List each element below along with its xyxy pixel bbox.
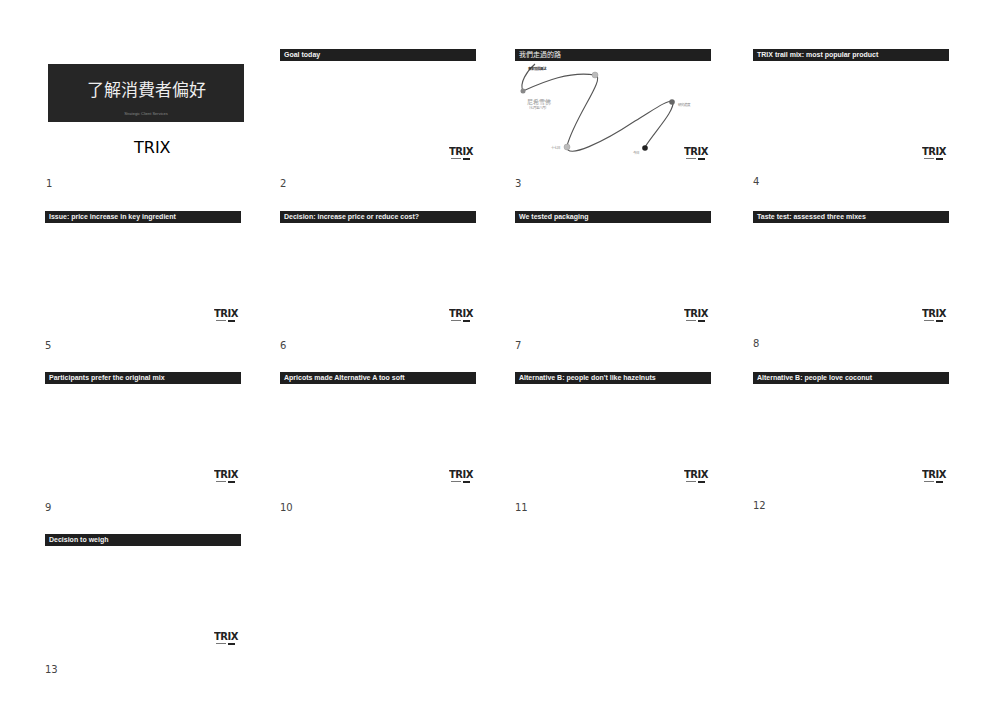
slide-title: TRIX trail mix: most popular product xyxy=(753,49,949,61)
trix-logo-tagline-icon xyxy=(213,481,239,483)
path-node-icon xyxy=(669,99,675,105)
trix-logo-tagline-icon xyxy=(448,481,474,483)
slide-title: Participants prefer the original mix xyxy=(45,372,241,384)
trix-logo-wordmark: TRIX xyxy=(448,470,474,481)
slide-thumbnail-7[interactable]: We tested packaging TRIX xyxy=(515,211,711,337)
journey-path-diagram xyxy=(515,61,711,166)
trix-logo: TRIX xyxy=(683,470,709,484)
trix-logo-wordmark: TRIX xyxy=(921,470,947,481)
trix-logo: TRIX xyxy=(921,470,947,484)
slide-title: Issue: price increase in key ingredient xyxy=(45,211,241,223)
slide-number: 12 xyxy=(753,500,766,511)
trix-logo: TRIX xyxy=(921,309,947,323)
slide-title: Decision: increase price or reduce cost? xyxy=(280,211,476,223)
trix-logo: TRIX xyxy=(448,309,474,323)
slide-thumbnail-2[interactable]: Goal today TRIX xyxy=(280,49,476,175)
trix-logo: TRIX xyxy=(448,470,474,484)
slide-title: Alternative B: people love coconut xyxy=(753,372,949,384)
trix-logo-tagline-icon xyxy=(213,320,239,322)
path-node-icon xyxy=(564,144,570,150)
slide-number: 9 xyxy=(45,502,51,513)
slide-number: 13 xyxy=(45,664,58,675)
slide-thumbnail-13[interactable]: Decision to weigh TRIX xyxy=(45,534,241,660)
slide-title: Decision to weigh xyxy=(45,534,241,546)
slide-number: 6 xyxy=(280,340,286,351)
trix-logo-wordmark: TRIX xyxy=(921,309,947,320)
trix-logo-tagline-icon xyxy=(448,320,474,322)
path-node-icon xyxy=(592,72,598,78)
slide-thumbnail-9[interactable]: Participants prefer the original mix TRI… xyxy=(45,372,241,498)
slide-title: Apricots made Alternative A too soft xyxy=(280,372,476,384)
trix-logo-wordmark: TRIX xyxy=(213,632,239,643)
slide-number: 7 xyxy=(515,340,521,351)
trix-logo: TRIX xyxy=(134,138,160,152)
slide-thumbnail-11[interactable]: Alternative B: people don't like hazelnu… xyxy=(515,372,711,498)
trix-logo: TRIX xyxy=(213,309,239,323)
trix-logo: TRIX xyxy=(683,147,709,161)
slide-title: Taste test: assessed three mixes xyxy=(753,211,949,223)
trix-logo-wordmark: TRIX xyxy=(921,147,947,158)
slide-thumbnail-12[interactable]: Alternative B: people love coconut TRIX xyxy=(753,372,949,498)
trix-logo-tagline-icon xyxy=(683,158,709,160)
trix-logo: TRIX xyxy=(448,147,474,161)
map-label-start: 專案發展概述 xyxy=(528,66,546,71)
trix-logo-wordmark: TRIX xyxy=(683,470,709,481)
trix-logo-tagline-icon xyxy=(683,481,709,483)
slide-title: We tested packaging xyxy=(515,211,711,223)
trix-logo-wordmark: TRIX xyxy=(448,309,474,320)
slide-number: 3 xyxy=(515,178,521,189)
slide-thumbnail-3[interactable]: 我們走過的路 專案發展概述 尼希雪佛 （七月至八月） 十七日 研究進度 今日 T… xyxy=(515,49,711,175)
trix-logo-tagline-icon xyxy=(921,158,947,160)
slide-thumbnail-5[interactable]: Issue: price increase in key ingredient … xyxy=(45,211,241,337)
slide-title: Alternative B: people don't like hazelnu… xyxy=(515,372,711,384)
slide-thumbnail-6[interactable]: Decision: increase price or reduce cost?… xyxy=(280,211,476,337)
slide-number: 8 xyxy=(753,338,759,349)
slide-title: Goal today xyxy=(280,49,476,61)
slide-number: 2 xyxy=(280,178,286,189)
trix-logo-tagline-icon xyxy=(921,320,947,322)
trix-logo-wordmark: TRIX xyxy=(213,470,239,481)
slide-thumbnail-10[interactable]: Apricots made Alternative A too soft TRI… xyxy=(280,372,476,498)
slide-number: 5 xyxy=(45,340,51,351)
slide-thumbnail-1[interactable]: 了解消費者偏好 Strategic Client Services TRIX xyxy=(46,46,242,172)
map-label-node1-sub: （七月至八月） xyxy=(527,105,548,110)
trix-logo: TRIX xyxy=(921,147,947,161)
slide-number: 10 xyxy=(280,502,293,513)
trix-logo-wordmark: TRIX xyxy=(448,147,474,158)
slide-thumbnail-4[interactable]: TRIX trail mix: most popular product TRI… xyxy=(753,49,949,175)
trix-logo-wordmark: TRIX xyxy=(683,309,709,320)
map-label-node2: 十七日 xyxy=(551,145,560,150)
trix-logo-tagline-icon xyxy=(921,481,947,483)
trix-logo-tagline-icon xyxy=(683,320,709,322)
map-label-end: 今日 xyxy=(633,150,639,155)
slide-title: 我們走過的路 xyxy=(515,49,711,61)
path-node-end-icon xyxy=(642,145,648,151)
slide-number: 11 xyxy=(515,502,528,513)
path-node-icon xyxy=(521,89,526,94)
trix-logo-wordmark: TRIX xyxy=(213,309,239,320)
cover-title: 了解消費者偏好 xyxy=(48,76,244,101)
cover-title-box: 了解消費者偏好 Strategic Client Services xyxy=(48,64,244,122)
trix-logo: TRIX xyxy=(213,470,239,484)
map-label-node3: 研究進度 xyxy=(678,102,690,107)
trix-logo: TRIX xyxy=(213,632,239,646)
trix-logo-wordmark: TRIX xyxy=(683,147,709,158)
trix-logo-tagline-icon xyxy=(448,158,474,160)
slide-thumbnail-8[interactable]: Taste test: assessed three mixes TRIX xyxy=(753,211,949,337)
slide-number: 1 xyxy=(46,178,52,189)
trix-logo-tagline-icon xyxy=(213,643,239,645)
cover-subtitle: Strategic Client Services xyxy=(48,111,244,116)
slide-number: 4 xyxy=(753,176,759,187)
trix-logo-wordmark: TRIX xyxy=(134,138,171,157)
trix-logo: TRIX xyxy=(683,309,709,323)
